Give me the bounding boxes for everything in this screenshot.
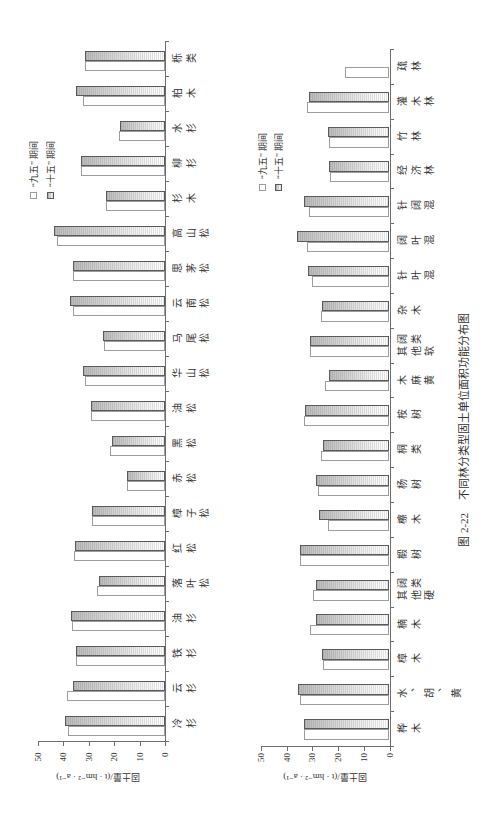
- bar-series-2: [310, 336, 389, 347]
- x-axis-tick: [390, 188, 394, 189]
- bar-series-2: [309, 92, 389, 103]
- bar-series-2: [322, 649, 390, 660]
- y-axis-title: 固土量/(t · hm⁻² · a⁻¹): [283, 772, 366, 782]
- category-label: 楠木: [397, 619, 424, 631]
- bar-chart-broadleaf-mixed-types: 01020304050固土量/(t · hm⁻² · a⁻¹)桦木水、胡、黄樟木…: [0, 0, 491, 821]
- x-axis-tick: [390, 398, 394, 399]
- bar-series-2: [305, 405, 389, 416]
- y-tick-label: 20: [333, 753, 343, 773]
- x-axis-tick: [390, 223, 394, 224]
- bar-series-1: [321, 451, 389, 462]
- y-tick-label: 40: [282, 753, 292, 773]
- bar-series-1: [304, 730, 390, 741]
- bar-series-2: [304, 196, 390, 207]
- x-axis-tick: [390, 84, 394, 85]
- bar-series-2: [316, 614, 390, 625]
- figure-page: 01020304050固土量/(t · hm⁻² · a⁻¹)冷杉云杉铁杉油杉落…: [0, 0, 491, 821]
- bar-series-2: [329, 371, 390, 382]
- bar-series-1: [307, 102, 389, 113]
- bar-series-1: [323, 660, 390, 671]
- bar-series-1: [313, 590, 390, 601]
- y-tick-label: 30: [307, 753, 317, 773]
- bar-series-1: [328, 520, 389, 531]
- bar-series-1: [310, 625, 389, 636]
- bar-series-2: [298, 684, 389, 695]
- y-axis-tick: [390, 747, 391, 751]
- legend-item: “十五” 期间: [273, 133, 283, 191]
- bar-series-1: [321, 311, 389, 322]
- category-label: 桉树: [397, 410, 424, 422]
- bar-series-2: [308, 266, 389, 277]
- bar-series-2: [300, 545, 389, 556]
- bar-series-1: [318, 486, 390, 497]
- bar-series-2: [297, 231, 389, 242]
- bar-series-2: [323, 440, 390, 451]
- y-tick-label: 0: [385, 753, 395, 773]
- bar-series-1: [307, 242, 390, 253]
- bar-series-1: [304, 416, 389, 427]
- x-axis-tick: [390, 467, 394, 468]
- bar-series-2: [322, 301, 390, 312]
- category-label: 阔叶混: [397, 236, 438, 248]
- x-axis-tick: [390, 258, 394, 259]
- x-axis-tick: [390, 328, 394, 329]
- x-axis-tick: [390, 432, 394, 433]
- bar-series-1: [329, 137, 389, 148]
- category-label: 桦木: [397, 724, 424, 736]
- bar-series-2: [319, 510, 389, 521]
- x-axis-tick: [390, 363, 394, 364]
- bar-series-2: [316, 475, 390, 486]
- x-axis-tick: [390, 119, 394, 120]
- bar-series-1: [309, 207, 389, 218]
- legend-item: “九五” 期间: [257, 133, 267, 191]
- bar-series-1: [325, 381, 390, 392]
- x-axis-tick: [390, 502, 394, 503]
- bar-series-2: [329, 161, 389, 172]
- x-axis-tick: [390, 572, 394, 573]
- y-tick-label: 10: [359, 753, 369, 773]
- bar-series-1: [310, 346, 389, 357]
- category-label: 疏林: [397, 61, 424, 73]
- category-label: 桐类: [397, 445, 424, 457]
- category-label: 竹林: [397, 131, 424, 143]
- x-axis-tick: [390, 641, 394, 642]
- category-label: 水、胡、黄: [397, 689, 465, 701]
- x-axis-tick: [390, 49, 394, 50]
- y-axis-tick: [312, 747, 313, 751]
- x-axis-tick: [390, 537, 394, 538]
- category-label: 杂木: [397, 305, 424, 317]
- x-axis-tick: [390, 711, 394, 712]
- category-label: 檫木: [397, 514, 424, 526]
- figure-caption: 图 2-22 不同林分类型固土单位面积功能分布图: [458, 39, 471, 821]
- y-tick-label: 50: [256, 753, 266, 773]
- category-label: 经济林: [397, 166, 438, 178]
- category-label: 针阔混: [397, 201, 438, 213]
- figure-number: 图 2-22: [458, 513, 470, 547]
- y-axis-tick: [338, 747, 339, 751]
- y-axis-tick: [261, 747, 262, 751]
- legend-swatch: [275, 184, 282, 191]
- bar-series-1: [345, 67, 390, 78]
- x-axis-tick: [390, 676, 394, 677]
- legend-label: “九五” 期间: [256, 133, 269, 179]
- bar-series-2: [316, 580, 390, 591]
- category-label: 木麻黄: [397, 375, 438, 387]
- category-label: 椴树: [397, 549, 424, 561]
- category-label: 灌木林: [397, 96, 438, 108]
- y-axis-line: [261, 746, 391, 747]
- x-axis-tick: [390, 293, 394, 294]
- bar-series-1: [312, 276, 390, 287]
- category-label: 针叶混: [397, 271, 438, 283]
- bar-series-1: [330, 172, 389, 183]
- y-axis-tick: [364, 747, 365, 751]
- legend-label: “十五” 期间: [272, 133, 285, 179]
- x-axis-tick: [390, 607, 394, 608]
- bar-series-1: [300, 555, 389, 566]
- category-label: 杨树: [397, 480, 424, 492]
- legend-swatch: [259, 184, 266, 191]
- y-axis-tick: [287, 747, 288, 751]
- category-label: 樟木: [397, 654, 424, 666]
- x-axis-tick: [390, 154, 394, 155]
- x-axis-tick: [390, 746, 394, 747]
- bar-series-1: [300, 695, 389, 706]
